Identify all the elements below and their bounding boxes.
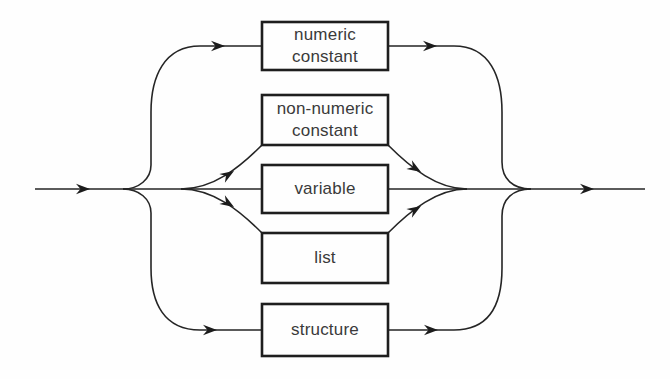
- rail-non-numeric-right: [388, 145, 467, 189]
- rail-list-left: [181, 189, 262, 233]
- node-label-numeric-constant: numeric constant: [262, 22, 388, 70]
- rail-list-right: [388, 189, 467, 233]
- rail-bottom-right: [388, 189, 531, 330]
- rail-top-right: [388, 46, 531, 189]
- node-label-non-numeric-constant: non-numeric constant: [262, 95, 388, 145]
- rail-non-numeric-left: [181, 145, 262, 189]
- node-label-list: list: [262, 233, 388, 283]
- syntax-diagram: numeric constant non-numeric constant va…: [0, 0, 670, 379]
- node-label-structure: structure: [262, 304, 388, 356]
- rail-top-left: [123, 46, 262, 189]
- rail-bottom-left: [123, 189, 262, 330]
- node-label-variable: variable: [262, 165, 388, 213]
